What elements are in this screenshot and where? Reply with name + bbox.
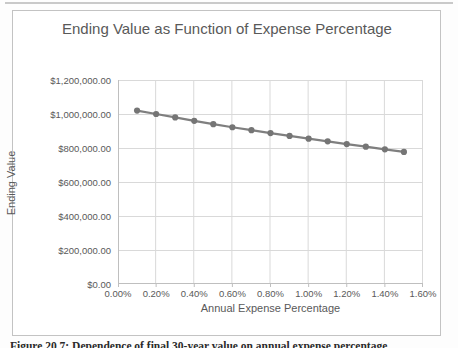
chart-title: Ending Value as Function of Expense Perc…	[12, 20, 442, 37]
y-tick-label: $1,200,000.00	[0, 75, 111, 86]
data-point-marker	[210, 121, 216, 127]
plot-area	[118, 80, 423, 290]
y-tick-label: $800,000.00	[0, 143, 111, 154]
data-point-marker	[325, 138, 331, 144]
y-tick-label: $400,000.00	[0, 211, 111, 222]
data-point-marker	[344, 141, 350, 147]
data-point-marker	[229, 124, 235, 130]
data-point-marker	[306, 136, 312, 142]
data-point-marker	[248, 127, 254, 133]
page-top-rule	[5, 2, 453, 4]
y-tick-label: $0.00	[0, 279, 111, 290]
data-point-marker	[134, 108, 140, 114]
data-point-marker	[382, 146, 388, 152]
x-tick-label: 1.60%	[401, 288, 445, 299]
data-point-marker	[286, 133, 292, 139]
figure-caption: Figure 20.7: Dependence of final 30-year…	[10, 340, 458, 348]
data-point-marker	[267, 130, 273, 136]
y-tick-label: $600,000.00	[0, 177, 111, 188]
y-tick-label: $1,000,000.00	[0, 109, 111, 120]
data-point-marker	[363, 144, 369, 150]
y-tick-label: $200,000.00	[0, 245, 111, 256]
book-page-figure: Ending Value as Function of Expense Perc…	[0, 0, 458, 348]
data-point-marker	[191, 118, 197, 124]
data-point-marker	[153, 111, 159, 117]
data-point-marker	[172, 114, 178, 120]
x-axis-title: Annual Expense Percentage	[118, 302, 423, 314]
data-point-marker	[401, 149, 407, 155]
